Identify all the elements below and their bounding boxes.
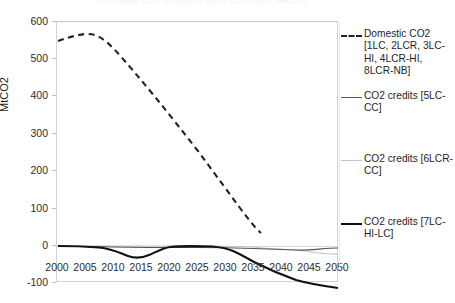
y-tick-label: -100 bbox=[22, 277, 48, 287]
legend-key-solid-thick-icon bbox=[341, 219, 362, 230]
y-tick-label: 100 bbox=[22, 203, 48, 213]
legend-item-domestic-co2[interactable]: Domestic CO2 [1LC, 2LCR, 3LC-HI, 4LCR-HI… bbox=[341, 28, 454, 77]
legend-label: CO2 credits [6LCR-CC] bbox=[364, 153, 454, 178]
legend-item-7lc-hi-lc[interactable]: CO2 credits [7LC-HI-LC] bbox=[341, 216, 454, 241]
y-tick-label: 300 bbox=[22, 128, 48, 138]
y-tick-label: 400 bbox=[22, 90, 48, 100]
y-axis-label: MtCO2 bbox=[0, 77, 10, 112]
y-tick-label: 600 bbox=[22, 16, 48, 26]
y-tick-mark bbox=[52, 282, 56, 283]
legend-label: CO2 credits [7LC-HI-LC] bbox=[364, 216, 454, 241]
legend-key-dashed-icon bbox=[341, 31, 362, 42]
legend-key-solid-icon bbox=[341, 93, 362, 104]
y-tick-label: 0 bbox=[22, 240, 48, 250]
series-line-domestic-co2 bbox=[58, 34, 261, 233]
series-layer bbox=[57, 22, 339, 283]
legend-label: CO2 credits [5LC-CC] bbox=[364, 90, 454, 115]
y-tick-label: 200 bbox=[22, 165, 48, 175]
chart-legend: Domestic CO2 [1LC, 2LCR, 3LC-HI, 4LCR-HI… bbox=[339, 22, 455, 267]
legend-key-solid-light-icon bbox=[341, 156, 362, 167]
plot-area bbox=[56, 21, 338, 282]
legend-label: Domestic CO2 [1LC, 2LCR, 3LC-HI, 4LCR-HI… bbox=[364, 28, 454, 77]
legend-item-6lcr-cc[interactable]: CO2 credits [6LCR-CC] bbox=[341, 153, 454, 178]
legend-item-5lc-cc[interactable]: CO2 credits [5LC-CC] bbox=[341, 90, 454, 115]
y-tick-label: 500 bbox=[22, 53, 48, 63]
chart-title-clipped: Domestic CO2 emissions and CO2 credits (… bbox=[70, 0, 340, 6]
chart-screenshot: Domestic CO2 emissions and CO2 credits (… bbox=[0, 0, 455, 303]
